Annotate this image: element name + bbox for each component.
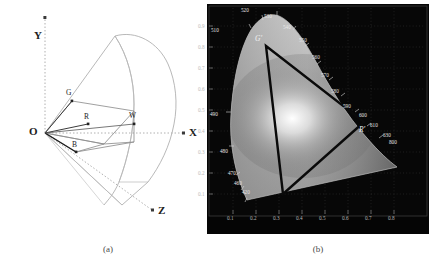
axis-label-x: X — [189, 127, 197, 138]
point-label-G-prime: G' — [255, 35, 262, 43]
vertex-dot-G — [71, 100, 74, 103]
axis-label-y: Y — [34, 30, 42, 41]
y-tick-0.8: 0.8 — [198, 45, 204, 50]
wavelength-label-610: 610 — [370, 123, 378, 128]
x-tick-0.3: 0.3 — [273, 216, 279, 221]
x-tick-0.8: 0.8 — [388, 216, 394, 221]
point-label-R: R — [84, 113, 89, 121]
y-tick-0.9: 0.9 — [198, 24, 204, 29]
caption-a: (a) — [78, 244, 138, 254]
color-solid-outline — [45, 34, 176, 205]
axis-label-z: Z — [158, 205, 165, 216]
x-tick-0.5: 0.5 — [319, 216, 325, 221]
wavelength-label-570: 570 — [321, 73, 329, 78]
xyz-color-solid-drawing — [0, 0, 210, 240]
wavelength-label-420: 420 — [242, 190, 250, 195]
wavelength-label-480: 480 — [220, 149, 228, 154]
panel-b-chromaticity-diagram: 520 530 540 510 550 560 570 580 590 600 … — [207, 4, 429, 234]
y-tick-0.5: 0.5 — [198, 108, 204, 113]
z-axis-tip — [151, 209, 154, 212]
wavelength-label-490: 490 — [210, 112, 218, 117]
y-tick-0.7: 0.7 — [198, 66, 204, 71]
x-tick-0.4: 0.4 — [296, 216, 302, 221]
wavelength-label-520: 520 — [241, 8, 249, 13]
x-tick-0.6: 0.6 — [342, 216, 348, 221]
x-tick-0.1: 0.1 — [227, 216, 233, 221]
wavelength-label-560: 560 — [312, 55, 320, 60]
point-label-W: W — [129, 112, 136, 120]
x-tick-0.7: 0.7 — [365, 216, 371, 221]
wavelength-label-800: 800 — [389, 140, 397, 145]
vertex-dot-W — [133, 123, 136, 126]
wavelength-label-580: 580 — [331, 89, 339, 94]
wavelength-label-470: 470 — [228, 171, 236, 176]
wavelength-label-550: 550 — [299, 38, 307, 43]
point-label-R-prime: R' — [359, 126, 365, 134]
wavelength-label-600: 600 — [359, 113, 367, 118]
vector-O-to-W — [45, 124, 134, 133]
vertex-dot-R — [87, 123, 90, 126]
wavelength-label-540: 540 — [283, 25, 291, 30]
wavelength-label-460: 460 — [234, 181, 242, 186]
y-tick-0.6: 0.6 — [198, 87, 204, 92]
gamut-top-face — [45, 101, 134, 144]
wavelength-label-590: 590 — [343, 104, 351, 109]
caption-b: (b) — [288, 244, 348, 254]
figure-container: Y X Z O G R B W — [0, 0, 432, 269]
wavelength-label-630: 630 — [383, 133, 391, 138]
color-solid-spine — [104, 36, 134, 205]
point-label-B: B — [72, 141, 77, 149]
wavelength-label-510: 510 — [211, 28, 219, 33]
point-label-origin: O — [29, 126, 38, 137]
y-tick-0.2: 0.2 — [198, 171, 204, 176]
wavelength-label-530: 530 — [264, 14, 272, 19]
x-axis-tip — [182, 132, 185, 135]
y-tick-0.1: 0.1 — [198, 192, 204, 197]
point-label-G: G — [66, 89, 71, 97]
chromaticity-plot-area: 520 530 540 510 550 560 570 580 590 600 … — [207, 4, 429, 234]
x-tick-0.2: 0.2 — [250, 216, 256, 221]
panel-a-xyz-color-solid: Y X Z O G R B W — [0, 0, 210, 240]
y-tick-0.4: 0.4 — [198, 129, 204, 134]
vertex-dot-B — [75, 151, 78, 154]
y-tick-0.3: 0.3 — [198, 150, 204, 155]
y-axis-tip — [43, 16, 46, 19]
chromaticity-drawing — [207, 4, 429, 234]
